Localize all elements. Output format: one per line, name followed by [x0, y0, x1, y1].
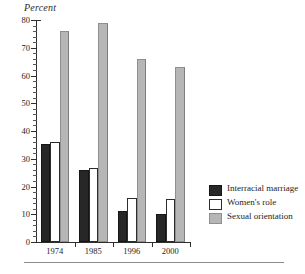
legend-item[interactable]: Sexual orientation — [209, 212, 301, 224]
bar[interactable] — [175, 67, 185, 242]
footer-rule — [24, 262, 284, 263]
y-axis-minor-tick — [33, 64, 37, 65]
bar[interactable] — [41, 144, 51, 243]
y-axis-minor-tick — [33, 220, 37, 221]
bar-group-1996 — [118, 20, 147, 242]
y-axis-minor-tick — [33, 31, 37, 32]
y-axis-minor-tick — [33, 225, 37, 226]
y-axis-tick-label: 40 — [14, 127, 30, 136]
y-axis-major-tick — [31, 214, 37, 215]
legend-item[interactable]: Women's role — [209, 198, 301, 210]
chart-legend: Interracial marriageWomen's roleSexual o… — [209, 184, 301, 226]
y-axis-tick-label: 10 — [14, 210, 30, 219]
y-axis-minor-tick — [33, 137, 37, 138]
bar[interactable] — [79, 170, 89, 242]
y-axis-minor-tick — [33, 142, 37, 143]
y-axis-minor-tick — [33, 236, 37, 237]
y-axis-minor-tick — [33, 26, 37, 27]
bar[interactable] — [98, 23, 108, 242]
legend-item-label: Interracial marriage — [227, 184, 298, 194]
y-axis-minor-tick — [33, 125, 37, 126]
y-axis-minor-tick — [33, 153, 37, 154]
y-axis-minor-tick — [33, 37, 37, 38]
y-axis-tick-label: 20 — [14, 183, 30, 192]
y-axis-tick-label: 70 — [14, 44, 30, 53]
bar-group-2000 — [156, 20, 185, 242]
legend-item[interactable]: Interracial marriage — [209, 184, 301, 196]
y-axis-minor-tick — [33, 170, 37, 171]
y-axis-minor-tick — [33, 53, 37, 54]
bar-group-1985 — [79, 20, 108, 242]
bar[interactable] — [118, 211, 128, 242]
y-axis-minor-tick — [33, 231, 37, 232]
y-axis-major-tick — [31, 103, 37, 104]
plot-area: 01020304050607080 1974198519962000 — [36, 20, 190, 242]
bar[interactable] — [89, 168, 99, 242]
y-axis-major-tick — [31, 76, 37, 77]
legend-item-label: Sexual orientation — [227, 212, 293, 222]
y-axis-minor-tick — [33, 175, 37, 176]
y-axis-minor-tick — [33, 148, 37, 149]
bar[interactable] — [156, 214, 166, 242]
y-axis-major-tick — [31, 187, 37, 188]
y-axis-minor-tick — [33, 87, 37, 88]
y-axis-major-tick — [31, 131, 37, 132]
y-axis-title: Percent — [24, 2, 56, 13]
x-axis-tick-label: 1985 — [73, 246, 114, 256]
y-axis-minor-tick — [33, 120, 37, 121]
y-axis-major-tick — [31, 48, 37, 49]
bar-chart-figure: Percent 01020304050607080 19741985199620… — [0, 0, 305, 274]
bar[interactable] — [166, 199, 176, 242]
y-axis-tick-labels: 01020304050607080 — [12, 20, 30, 242]
y-axis-minor-tick — [33, 203, 37, 204]
y-axis-minor-tick — [33, 164, 37, 165]
y-axis-minor-tick — [33, 192, 37, 193]
x-axis-tick-label: 1996 — [112, 246, 153, 256]
y-axis-minor-tick — [33, 109, 37, 110]
dark-swatch — [209, 185, 222, 196]
bar[interactable] — [50, 142, 60, 242]
white-swatch — [209, 199, 222, 210]
gray-swatch — [209, 213, 222, 224]
y-axis-minor-tick — [33, 209, 37, 210]
y-axis-tick-label: 50 — [14, 99, 30, 108]
y-axis-spine-cap — [36, 242, 41, 243]
y-axis-minor-tick — [33, 59, 37, 60]
bar[interactable] — [137, 59, 147, 242]
y-axis-minor-tick — [33, 114, 37, 115]
y-axis-major-tick — [31, 159, 37, 160]
y-axis-minor-tick — [33, 98, 37, 99]
y-axis-minor-tick — [33, 198, 37, 199]
y-axis-tick-label: 0 — [14, 238, 30, 247]
x-axis-tick-label: 1974 — [35, 246, 76, 256]
y-axis-minor-tick — [33, 181, 37, 182]
bar[interactable] — [127, 198, 137, 242]
y-axis-minor-tick — [33, 81, 37, 82]
y-axis-minor-tick — [33, 70, 37, 71]
x-axis-tick-label: 2000 — [150, 246, 191, 256]
legend-item-label: Women's role — [227, 198, 276, 208]
bar[interactable] — [60, 31, 70, 242]
y-axis-minor-tick — [33, 92, 37, 93]
y-axis-tick-label: 80 — [14, 16, 30, 25]
y-axis-tick-label: 30 — [14, 155, 30, 164]
y-axis-tick-label: 60 — [14, 72, 30, 81]
y-axis-minor-tick — [33, 42, 37, 43]
bar-group-1974 — [41, 20, 70, 242]
